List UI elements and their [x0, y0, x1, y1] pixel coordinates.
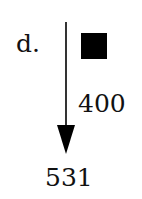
result-value: 531: [45, 165, 93, 190]
edge-value: 400: [78, 91, 126, 116]
